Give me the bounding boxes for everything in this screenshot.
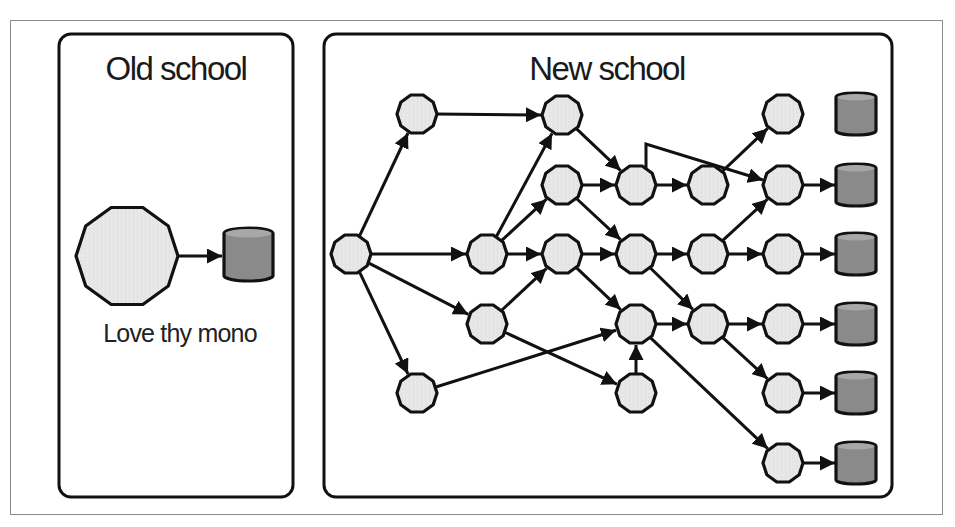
- microservice-node-icon: [542, 166, 582, 204]
- microservice-node-icon: [763, 444, 803, 482]
- microservice-node-icon: [397, 95, 437, 133]
- microservice-node-icon: [616, 305, 656, 343]
- microservice-node-icon: [763, 305, 803, 343]
- microservice-node-icon: [688, 305, 728, 343]
- microservice-node-icon: [616, 166, 656, 204]
- microservice-node-icon: [763, 374, 803, 412]
- microservice-node-icon: [763, 95, 803, 133]
- edge-a1-to-c1: [436, 114, 541, 115]
- microservice-node-icon: [688, 166, 728, 204]
- microservice-node-icon: [542, 235, 582, 273]
- microservice-node-icon: [616, 374, 656, 412]
- monolith-decagon-icon: [76, 208, 178, 305]
- microservice-node-icon: [763, 235, 803, 273]
- old-school-title: Old school: [106, 50, 247, 87]
- database-icon: [836, 442, 876, 484]
- microservice-node-icon: [397, 374, 437, 412]
- microservice-node-icon: [542, 96, 582, 134]
- microservice-node-icon: [616, 235, 656, 273]
- new-school-title: New school: [529, 50, 685, 87]
- database-icon: [836, 164, 876, 206]
- database-icon: [836, 303, 876, 345]
- microservice-node-icon: [331, 235, 371, 273]
- microservice-node-icon: [763, 166, 803, 204]
- monolith-database-icon: [224, 228, 273, 281]
- microservice-node-icon: [688, 235, 728, 273]
- architecture-diagram: Old school New school Love thy mono: [0, 0, 955, 527]
- database-icon: [836, 93, 876, 135]
- microservice-node-icon: [467, 305, 507, 343]
- monolith-caption: Love thy mono: [103, 319, 257, 347]
- database-icon: [836, 372, 876, 414]
- database-icon: [836, 233, 876, 275]
- microservice-node-icon: [467, 235, 507, 273]
